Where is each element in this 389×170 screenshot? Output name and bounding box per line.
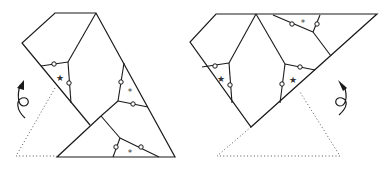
right-star-mark: ★ (217, 74, 225, 84)
right-inner-edge (229, 14, 256, 63)
left-node (52, 62, 56, 66)
right-node (213, 64, 217, 68)
right-node (280, 82, 284, 86)
right-star-mark: ★ (289, 75, 297, 85)
right-node (228, 83, 232, 87)
left-asterisk-mark: * (128, 148, 133, 158)
right-node (298, 65, 302, 69)
left-inner-edge (101, 101, 118, 116)
left-node (119, 80, 123, 84)
right-rotation-arrow-icon (336, 80, 347, 115)
right-outer-boundary (190, 14, 377, 127)
right-asterisk-mark: * (301, 18, 306, 28)
right-inner-edge (313, 32, 331, 56)
left-node (67, 81, 71, 85)
left-asterisk-mark: * (128, 87, 133, 97)
left-inner-edge (68, 13, 96, 62)
left-rotation-arrow-icon (17, 80, 28, 118)
left-node (131, 102, 135, 106)
right-inner-edge (256, 14, 285, 64)
left-node (139, 145, 143, 149)
left-figure: ★ * * (16, 13, 175, 158)
right-figure: ★ ★ * (190, 14, 377, 156)
left-outer-boundary (22, 13, 175, 157)
right-node (290, 22, 294, 26)
left-node (114, 145, 118, 149)
diagram-canvas: ★ * * ★ ★ * (0, 0, 389, 170)
left-star-mark: ★ (56, 73, 64, 83)
left-inner-edge (101, 116, 120, 138)
right-node (315, 22, 319, 26)
